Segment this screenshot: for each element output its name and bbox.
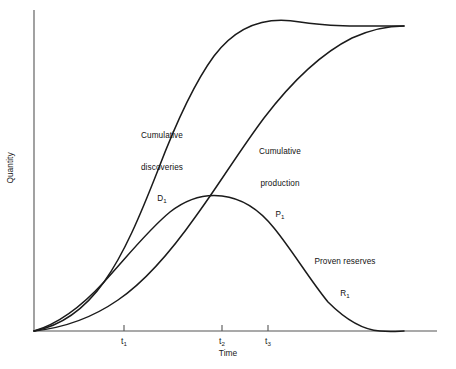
chart-figure: Quantity Time t1 t2 t3 Cumulative discov… [0, 0, 456, 369]
tick-label-t1: t1 [112, 336, 136, 346]
chart-canvas [0, 0, 456, 369]
annotation-proven-reserves: Proven reserves R1 [305, 236, 385, 320]
annotation-reserves-line1: Proven reserves [305, 257, 385, 268]
annotation-discoveries-line1: Cumulative [131, 131, 193, 142]
tick-label-t3: t3 [256, 336, 280, 346]
annotation-cumulative-production: Cumulative production P1 [250, 126, 310, 242]
annotation-reserves-symbol: R1 [305, 289, 385, 300]
x-axis-label: Time [198, 348, 258, 358]
annotation-cumulative-discoveries: Cumulative discoveries D1 [131, 110, 193, 226]
y-axis-label: Quantity [5, 137, 15, 199]
annotation-discoveries-symbol: D1 [131, 194, 193, 205]
annotation-discoveries-line2: discoveries [131, 163, 193, 174]
tick-label-t2: t2 [210, 336, 234, 346]
annotation-production-line2: production [250, 179, 310, 190]
annotation-production-symbol: P1 [250, 210, 310, 221]
annotation-production-line1: Cumulative [250, 147, 310, 158]
